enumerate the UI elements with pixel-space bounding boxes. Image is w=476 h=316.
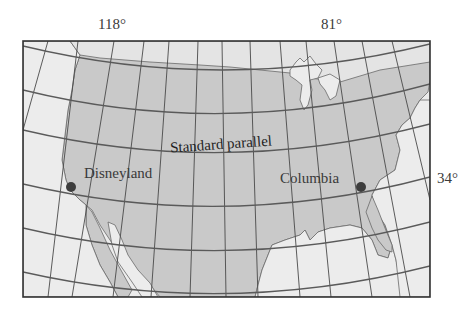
columbia-point[interactable] — [356, 182, 366, 192]
map-canvas — [0, 0, 476, 316]
disneyland-label: Disneyland — [84, 166, 152, 181]
parallel-label-34: 34° — [437, 171, 458, 186]
disneyland-point[interactable] — [66, 182, 76, 192]
meridian-label-81: 81° — [321, 17, 342, 32]
meridian-label-118: 118° — [98, 17, 126, 32]
columbia-label: Columbia — [280, 171, 339, 186]
